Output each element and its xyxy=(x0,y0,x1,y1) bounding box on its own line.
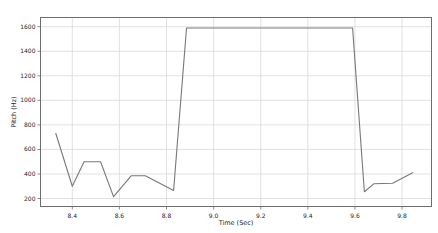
y-tick-label: 600 xyxy=(24,145,36,152)
x-tick-label: 9.6 xyxy=(350,212,360,219)
x-tick-label: 8.4 xyxy=(68,212,78,219)
y-tick-label: 400 xyxy=(24,170,36,177)
pitch-time-chart: 8.48.68.89.09.29.49.69.82004006008001000… xyxy=(0,0,438,233)
y-tick-label: 1200 xyxy=(20,72,35,79)
plot-border xyxy=(41,18,432,207)
x-tick-label: 9.0 xyxy=(209,212,219,219)
y-tick-label: 1400 xyxy=(20,47,35,54)
y-axis-label: Pitch (Hz) xyxy=(11,96,18,127)
y-tick-label: 1600 xyxy=(20,23,35,30)
pitch-line xyxy=(56,28,413,197)
x-axis-label: Time (Sec) xyxy=(219,220,254,227)
chart-canvas: 8.48.68.89.09.29.49.69.82004006008001000… xyxy=(0,0,438,233)
x-tick-label: 9.8 xyxy=(397,212,407,219)
x-tick-label: 9.2 xyxy=(256,212,266,219)
y-tick-label: 1000 xyxy=(20,96,35,103)
y-tick-label: 800 xyxy=(24,121,36,128)
x-tick-label: 9.4 xyxy=(303,212,313,219)
y-tick-label: 200 xyxy=(24,195,36,202)
x-tick-label: 8.6 xyxy=(115,212,125,219)
x-tick-label: 8.8 xyxy=(162,212,172,219)
